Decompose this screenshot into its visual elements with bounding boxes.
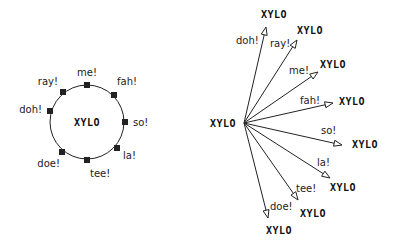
- ring-node-square: [84, 82, 90, 88]
- ring-node-label: fah!: [117, 76, 137, 87]
- arrowhead-icon: [290, 40, 297, 48]
- star-hub-label: XYLO: [210, 118, 236, 129]
- diagram-canvas: XYLO me!fah!so!la!tee!doe!doh!ray! doh!X…: [0, 0, 395, 249]
- arrow-label: ray!: [270, 38, 290, 49]
- arrow-label: tee!: [296, 183, 316, 194]
- ring-node-square: [111, 92, 117, 98]
- arrow-label: doe!: [270, 201, 293, 212]
- ring-node-label: doe!: [37, 158, 60, 169]
- star-arrows: doh!XYLOray!XYLOme!XYLOfah!XYLOso!XYLOla…: [236, 9, 378, 236]
- arrow-label: la!: [317, 157, 330, 168]
- arrow-label: me!: [289, 65, 309, 76]
- arrow-label: doh!: [236, 35, 259, 46]
- arrowhead-icon: [310, 72, 318, 79]
- ring-node-label: me!: [77, 67, 97, 78]
- ring-node-square: [60, 89, 66, 95]
- arrow-target-node: XYLO: [352, 139, 378, 150]
- ring-node-square: [47, 108, 53, 114]
- ring-node-square: [122, 119, 128, 125]
- ring-node-square: [84, 157, 90, 163]
- arrowhead-icon: [263, 210, 269, 218]
- ring-center-label: XYLO: [74, 117, 100, 128]
- arrow-shaft: [244, 47, 293, 123]
- star-diagram: doh!XYLOray!XYLOme!XYLOfah!XYLOso!XYLOla…: [210, 9, 378, 236]
- ring-node-label: doh!: [19, 104, 42, 115]
- arrowhead-icon: [322, 171, 330, 178]
- arrow-target-node: XYLO: [300, 208, 326, 219]
- ring-node-label: la!: [123, 150, 136, 161]
- arrow-target-node: XYLO: [297, 25, 323, 36]
- arrowhead-icon: [325, 102, 333, 108]
- arrowhead-icon: [334, 140, 342, 146]
- arrow-shaft: [244, 123, 293, 193]
- arrow-target-node: XYLO: [261, 9, 287, 20]
- arrow-target-node: XYLO: [320, 59, 346, 70]
- ring-node-label: so!: [133, 117, 148, 128]
- arrow-shaft: [244, 123, 323, 174]
- ring-node-square: [59, 149, 65, 155]
- ring-diagram: XYLO me!fah!so!la!tee!doe!doh!ray!: [19, 67, 148, 179]
- arrowhead-icon: [261, 27, 267, 35]
- arrow-target-node: XYLO: [330, 182, 356, 193]
- arrow-shaft: [244, 123, 266, 210]
- arrow-shaft: [244, 105, 325, 123]
- arrow-label: so!: [321, 125, 336, 136]
- ring-node-label: tee!: [90, 168, 110, 179]
- arrow-label: fah!: [300, 95, 320, 106]
- ring-node-square: [114, 145, 120, 151]
- ring-node-label: ray!: [38, 76, 58, 87]
- arrow-target-node: XYLO: [339, 96, 365, 107]
- arrow-target-node: XYLO: [266, 225, 292, 236]
- arrow-shaft: [244, 35, 264, 123]
